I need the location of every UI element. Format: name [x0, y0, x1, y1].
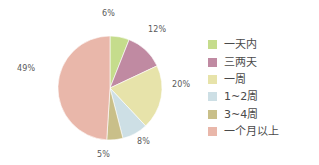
legend-item-label: 一天内 [224, 39, 257, 50]
legend-item[interactable]: 3~4周 [208, 106, 316, 123]
pie-slice[interactable] [58, 36, 110, 140]
legend-item[interactable]: 一天内 [208, 36, 316, 53]
legend-color-swatch-icon [208, 58, 217, 67]
legend-item-label: 一周 [224, 74, 246, 85]
legend-item[interactable]: 三两天 [208, 53, 316, 70]
legend-item-label: 1~2周 [224, 91, 258, 102]
legend-color-swatch-icon [208, 110, 217, 119]
legend-item[interactable]: 1~2周 [208, 88, 316, 105]
legend-color-swatch-icon [208, 40, 217, 49]
legend-item-label: 3~4周 [224, 109, 258, 120]
pie-chart-area: 6% 12% 20% 8% 5% 49% [0, 0, 210, 165]
legend-color-swatch-icon [208, 127, 217, 136]
slice-value-label-over-one-month: 49% [17, 64, 35, 73]
slice-value-label-one-two-weeks: 8% [137, 137, 150, 146]
slice-value-label-one-day: 6% [102, 9, 115, 18]
legend-color-swatch-icon [208, 75, 217, 84]
pie-chart-figure: 6% 12% 20% 8% 5% 49% 一天内 三两天 一周 1~2周 3~4… [0, 0, 319, 165]
pie-slice-group [58, 36, 162, 140]
slice-value-label-two-three-days: 12% [148, 25, 166, 34]
legend-item[interactable]: 一周 [208, 71, 316, 88]
legend-item-label: 三两天 [224, 57, 257, 68]
legend-color-swatch-icon [208, 92, 217, 101]
legend-item[interactable]: 一个月以上 [208, 123, 316, 140]
slice-value-label-one-week: 20% [172, 80, 190, 89]
chart-legend: 一天内 三两天 一周 1~2周 3~4周 一个月以上 [208, 36, 316, 140]
slice-value-label-three-four-weeks: 5% [97, 150, 110, 159]
legend-item-label: 一个月以上 [224, 126, 279, 137]
